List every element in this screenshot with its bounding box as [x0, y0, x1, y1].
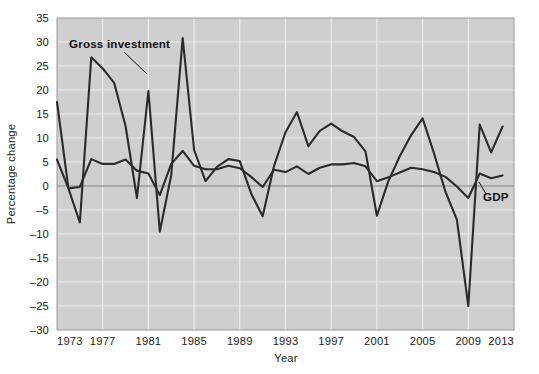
x-tick-label: 1989 [227, 335, 253, 347]
y-tick-label: 0 [43, 180, 49, 192]
x-tick-label: 1977 [90, 335, 116, 347]
x-tick-label: 1993 [273, 335, 299, 347]
x-tick-label: 2009 [455, 335, 481, 347]
y-tick-label: 35 [36, 12, 49, 24]
y-tick-label: –20 [30, 276, 49, 288]
y-tick-label: –15 [30, 252, 49, 264]
y-tick-label: –5 [36, 204, 49, 216]
x-tick-label: 1985 [181, 335, 207, 347]
y-tick-label: –25 [30, 300, 49, 312]
x-tick-label: 2001 [364, 335, 390, 347]
x-tick-label: 1997 [318, 335, 344, 347]
chart-figure: 35302520151050–5–10–15–20–25–30 19731977… [0, 0, 539, 374]
y-tick-label: 10 [36, 132, 49, 144]
x-axis-title: Year [274, 352, 297, 364]
y-tick-label: 5 [43, 156, 49, 168]
series-label-gdp: GDP [483, 190, 509, 203]
x-tick-label: 2005 [410, 335, 436, 347]
y-tick-label: 20 [36, 84, 49, 96]
y-tick-label: 15 [36, 108, 49, 120]
y-axis-title: Percentage change [5, 124, 17, 224]
y-tick-label: 25 [36, 60, 49, 72]
y-tick-label: 30 [36, 36, 49, 48]
x-tick-label: 2013 [488, 335, 514, 347]
x-tick-label: 1973 [57, 335, 83, 347]
series-label-gross-investment: Gross investment [69, 37, 170, 50]
y-tick-label: –30 [30, 324, 49, 336]
x-tick-label: 1981 [136, 335, 162, 347]
line-chart: 35302520151050–5–10–15–20–25–30 19731977… [0, 0, 539, 374]
y-tick-label: –10 [30, 228, 49, 240]
